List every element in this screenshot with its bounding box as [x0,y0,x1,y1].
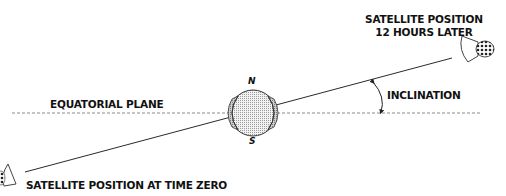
satellite-time-zero-label: SATELLITE POSITION AT TIME ZERO [26,179,227,191]
inclination-label: INCLINATION [387,89,461,101]
satellite-time-zero-icon [0,164,16,186]
inclination-arc [373,82,382,112]
satellite-12h-label-line2: 12 HOURS LATER [354,26,494,39]
earth-globe-icon [228,90,278,136]
satellite-12h-label-line1: SATELLITE POSITION [354,13,494,26]
north-pole-label: N [248,76,255,86]
equatorial-plane-label: EQUATORIAL PLANE [50,98,163,110]
south-pole-label: S [249,136,255,146]
satellite-12h-icon [461,36,494,62]
orbit-inclination-diagram: SATELLITE POSITION 12 HOURS LATER EQUATO… [0,0,506,196]
